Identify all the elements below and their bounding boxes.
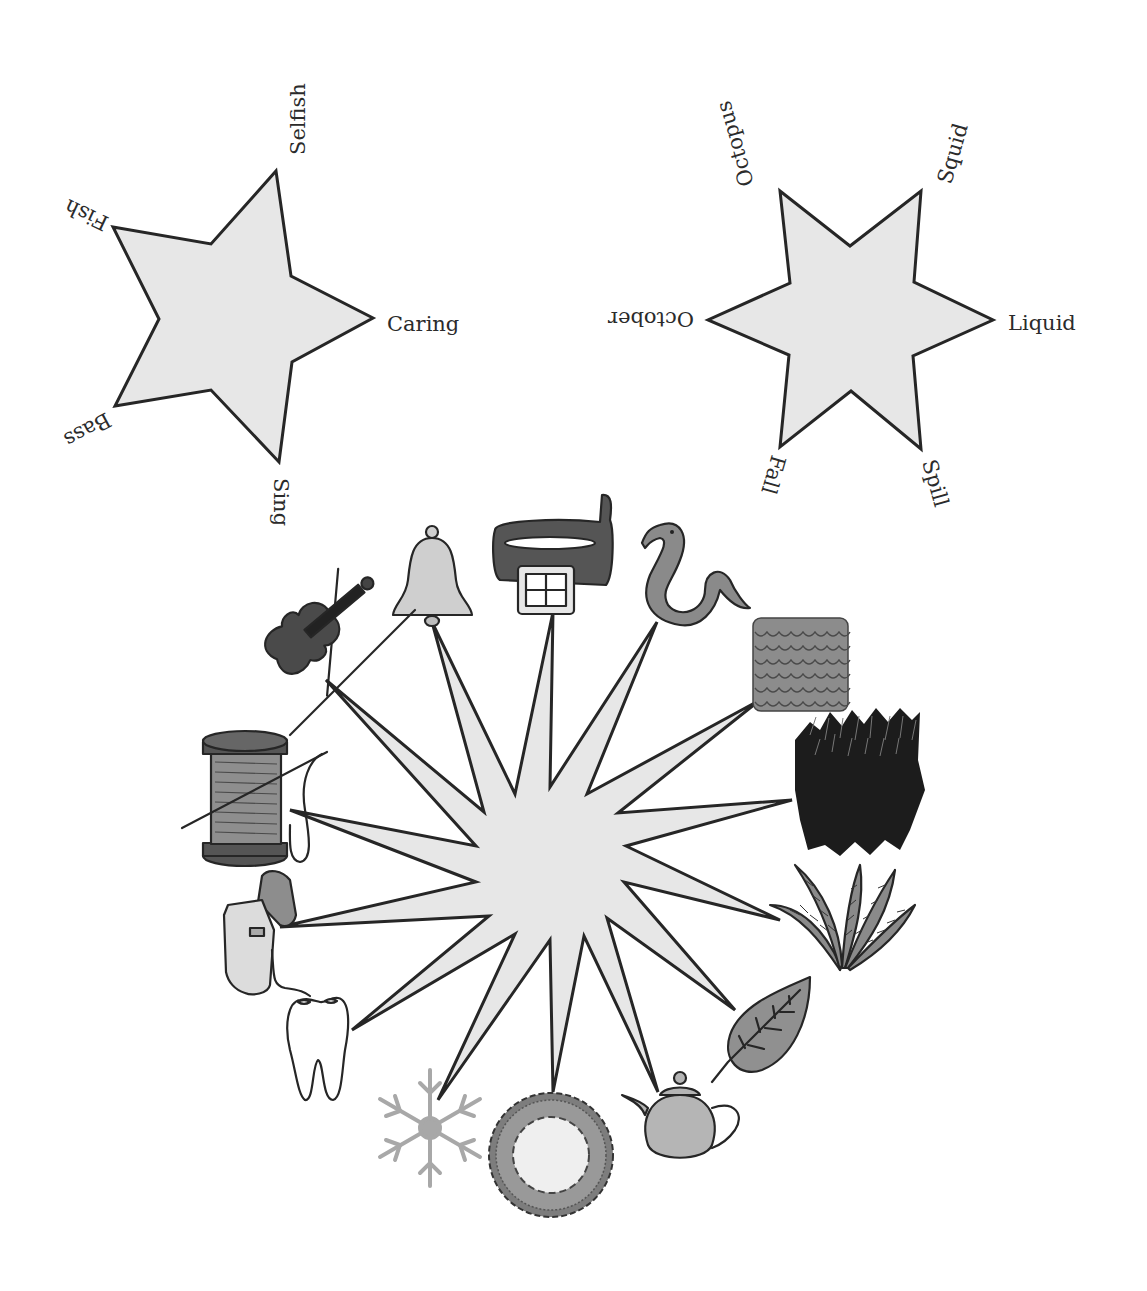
leaf-icon — [712, 977, 810, 1082]
fern-icon — [770, 865, 915, 970]
label-squid: Squid — [933, 121, 973, 187]
six-point-star-group: Squid Liquid Spill Fall October Octopus — [607, 98, 1076, 510]
snake-icon — [642, 523, 750, 625]
five-point-star — [113, 171, 373, 462]
label-sing: Sing — [269, 478, 293, 526]
teapot-icon — [622, 1072, 739, 1158]
six-point-star — [708, 191, 993, 449]
scales-icon — [753, 618, 850, 711]
five-point-star-group: Selfish Caring Sing Bass Fish — [60, 83, 459, 526]
tooth-icon — [287, 998, 348, 1100]
dental-floss-icon — [224, 871, 310, 996]
label-selfish: Selfish — [286, 83, 310, 155]
label-bass: Bass — [60, 408, 115, 452]
label-october: October — [607, 307, 694, 331]
label-caring: Caring — [387, 312, 459, 336]
label-fish: Fish — [61, 194, 112, 235]
picture-star-group — [280, 612, 792, 1100]
fur-icon — [795, 708, 925, 856]
label-liquid: Liquid — [1008, 311, 1076, 335]
belt-icon — [493, 495, 612, 614]
snowflake-icon — [380, 1070, 480, 1186]
picture-star — [280, 612, 792, 1100]
label-spill: Spill — [917, 457, 953, 510]
spool-icon — [182, 731, 327, 866]
label-fall: Fall — [756, 453, 790, 497]
doily-icon — [489, 1093, 613, 1217]
label-octopus: Octopus — [712, 98, 759, 189]
